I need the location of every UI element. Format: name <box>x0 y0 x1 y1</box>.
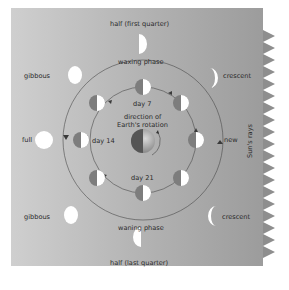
label-waxing-phase: waxing phase <box>118 58 164 66</box>
label-waning-phase: waning phase <box>118 224 164 232</box>
sun-rays-label: Sun's rays <box>246 123 254 158</box>
label-gibbous-lower: gibbous <box>24 213 51 221</box>
label-direction-line2: Earth's rotation <box>117 121 168 129</box>
label-last-quarter: half (last quarter) <box>110 259 168 267</box>
label-day-7: day 7 <box>133 100 151 108</box>
moon-waxing-gibbous <box>68 66 82 84</box>
label-gibbous-upper: gibbous <box>24 72 51 80</box>
label-full: full <box>22 136 32 144</box>
label-direction-line1: direction of <box>124 113 162 121</box>
moon-phases-diagram: Sun's rays <box>0 0 289 290</box>
label-crescent-lower: crescent <box>222 213 251 221</box>
label-crescent-upper: crescent <box>223 72 252 80</box>
label-day-21: day 21 <box>131 174 154 182</box>
label-first-quarter: half (first quarter) <box>110 20 169 28</box>
sun-rays-icon <box>263 30 275 258</box>
label-new: new <box>224 136 238 144</box>
moon-waning-gibbous <box>64 206 78 224</box>
label-day-14: day 14 <box>92 137 115 145</box>
moon-full <box>35 131 53 149</box>
